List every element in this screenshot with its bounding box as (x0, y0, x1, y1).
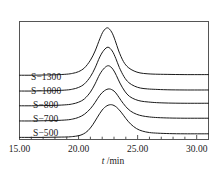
curve-label-s500: S−500 (33, 129, 58, 139)
x-axis-title-unit: /min (104, 156, 124, 166)
curve-label-s700: S−700 (33, 115, 58, 125)
x-tick-label-15: 15.00 (9, 145, 30, 155)
x-tick-label-30: 30.00 (186, 145, 207, 155)
x-tick-label-20: 20.00 (68, 145, 89, 155)
x-axis-title: t /min (102, 157, 124, 167)
chromatogram-figure: S−1300 S−1000 S−800 S−700 S−500 15.00 20… (0, 0, 217, 172)
curve-label-s1300: S−1300 (31, 73, 61, 83)
curve-label-s1000: S−1000 (31, 87, 61, 97)
x-tick-label-25: 25.00 (127, 145, 148, 155)
curve-label-s800: S−800 (33, 101, 58, 111)
